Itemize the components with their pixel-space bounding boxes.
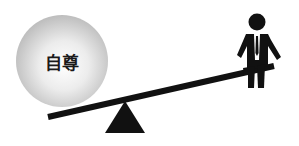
ball-label: 自尊 [32,49,92,74]
seesaw-diagram: 自尊 [0,0,299,146]
businessman-icon [237,14,281,89]
